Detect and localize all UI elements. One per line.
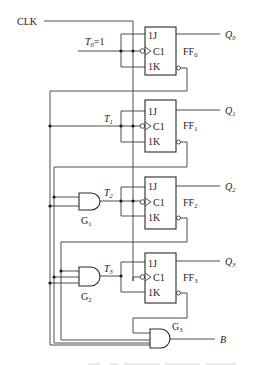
ff2-name: FF2	[183, 197, 197, 209]
g1-label: G1	[81, 215, 91, 227]
b-output-label: B	[220, 334, 226, 345]
t1-label: T1	[104, 113, 113, 125]
flip-flop-1: 1J C1 1K FF1	[140, 100, 197, 152]
ff0-clock-bubble-icon	[140, 49, 145, 54]
ff3-pin-c1: C1	[153, 272, 165, 283]
t3-label: T3	[104, 263, 114, 275]
g2-label: G2	[81, 291, 91, 303]
ff2-qbar-bubble-icon	[177, 216, 181, 220]
ff1-pin-c1: C1	[153, 121, 165, 132]
and-gate-g2-icon	[79, 267, 100, 286]
q1bar-bus	[54, 142, 187, 343]
ff3-pin-1j: 1J	[148, 258, 157, 269]
q0-label: Q0	[225, 29, 236, 41]
q3-label: Q3	[225, 256, 236, 268]
ff1-pin-1j: 1J	[148, 106, 157, 117]
ff3-qbar-bubble-icon	[177, 291, 181, 295]
ff1-clock-bubble-icon	[140, 124, 145, 129]
g3-label: G3	[172, 321, 182, 333]
ff0-pin-1j: 1J	[148, 30, 157, 41]
clk-label: CLK	[17, 16, 38, 27]
ff2-pin-1k: 1K	[148, 212, 161, 223]
counter-circuit-diagram: CLK 1J C1 1K FF0 Q0 T0=1 1J C1 1K FF1 Q1…	[0, 0, 257, 365]
q1-label: Q1	[225, 105, 235, 117]
ff2-clock-bubble-icon	[140, 200, 145, 205]
and-gate-g3-icon	[150, 329, 170, 348]
ff3-pin-1k: 1K	[148, 287, 161, 298]
ff3-clock-bubble-icon	[140, 275, 145, 280]
ff1-name: FF1	[183, 120, 197, 132]
flip-flop-2: 1J C1 1K FF2	[140, 177, 197, 229]
and-gate-g1-icon	[79, 193, 100, 210]
ff0-name: FF0	[183, 46, 197, 58]
ff0-pin-c1: C1	[153, 46, 165, 57]
t0-label: T0=1	[85, 36, 104, 48]
flip-flop-3: 1J C1 1K FF3	[140, 253, 197, 303]
clock-ff3-tap	[133, 277, 140, 281]
ff3-name: FF3	[183, 272, 197, 284]
t2-label: T2	[104, 187, 114, 199]
ff0-pin-1k: 1K	[148, 61, 161, 72]
ff2-pin-c1: C1	[153, 197, 165, 208]
ff2-pin-1j: 1J	[148, 181, 157, 192]
ff0-qbar-bubble-icon	[177, 66, 181, 70]
ff1-qbar-bubble-icon	[177, 140, 181, 144]
ff1-pin-1k: 1K	[148, 136, 161, 147]
q2-label: Q2	[225, 181, 236, 193]
